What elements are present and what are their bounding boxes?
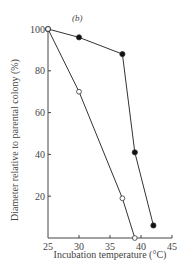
open-circle-marker (120, 196, 125, 201)
data-series (45, 26, 156, 240)
chart: 253035404520406080100 (b) Incubation tem… (0, 0, 187, 276)
y-tick-label: 60 (35, 107, 45, 118)
panel-label: (b) (72, 13, 83, 23)
y-tick-label: 20 (35, 191, 45, 202)
y-axis-title: Diameter relative to parental colony (%) (9, 59, 21, 221)
filled-circle-marker (151, 223, 156, 228)
filled-circle-marker (120, 51, 125, 56)
x-tick-label: 45 (167, 241, 177, 252)
y-tick-label: 80 (35, 65, 45, 76)
filled-circles-line (48, 29, 153, 225)
x-tick-label: 25 (43, 241, 53, 252)
y-tick-label: 100 (30, 24, 45, 35)
filled-circle-marker (132, 150, 137, 155)
open-circle-marker (46, 27, 51, 32)
open-circles-line (48, 29, 135, 238)
axes: 253035404520406080100 (30, 24, 177, 253)
x-axis-title: Incubation temperature (°C) (54, 249, 167, 261)
open-circle-marker (132, 236, 137, 241)
open-circle-marker (77, 89, 82, 94)
y-tick-label: 40 (35, 149, 45, 160)
filled-circle-marker (76, 35, 81, 40)
